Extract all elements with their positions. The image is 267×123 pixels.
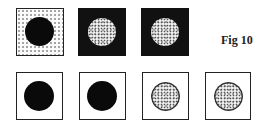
bottom-panel-4 — [205, 72, 251, 120]
top-panel-3 — [141, 8, 189, 56]
bottom-panel-3 — [142, 72, 189, 120]
mottled-outlined-disc — [214, 82, 243, 111]
mottled-disc — [88, 18, 116, 46]
bottom-panel-2 — [79, 72, 126, 120]
black-disc — [87, 81, 117, 111]
top-panel-1 — [16, 8, 64, 56]
black-disc — [25, 17, 54, 46]
bottom-panel-1 — [16, 72, 63, 120]
mottled-disc — [151, 18, 179, 46]
figure-label: Fig 10 — [221, 33, 253, 48]
mottled-outlined-disc — [151, 82, 180, 111]
black-disc — [24, 81, 54, 111]
top-panel-2 — [78, 8, 126, 56]
